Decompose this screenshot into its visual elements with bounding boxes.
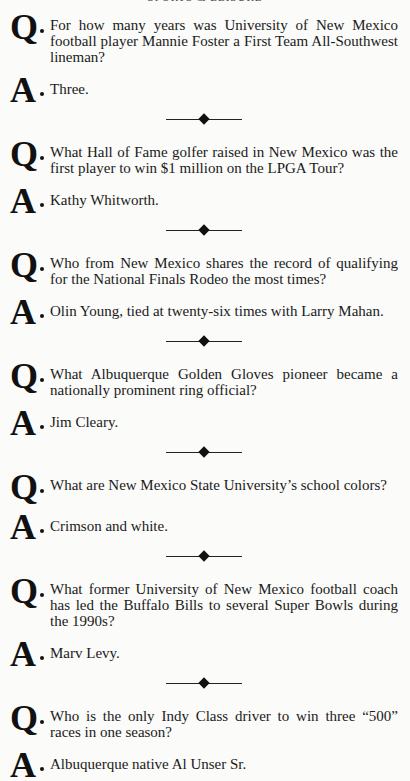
answer-marker: A bbox=[0, 75, 50, 105]
question-marker: Q bbox=[0, 576, 50, 606]
bullet-dot-icon bbox=[40, 425, 44, 429]
answer-marker: A bbox=[0, 186, 50, 216]
diamond-ornament-icon bbox=[198, 446, 209, 457]
diamond-ornament-icon bbox=[198, 113, 209, 124]
question-row: Q What Albuquerque Golden Gloves pioneer… bbox=[0, 361, 410, 398]
answer-text: Jim Cleary. bbox=[50, 408, 410, 430]
answer-marker: A bbox=[0, 639, 50, 669]
bullet-dot-icon bbox=[40, 29, 44, 33]
answer-text: Crimson and white. bbox=[50, 512, 410, 534]
question-text: What are New Mexico State University’s s… bbox=[50, 472, 410, 493]
question-text: Who from New Mexico shares the record of… bbox=[50, 250, 410, 287]
bullet-dot-icon bbox=[40, 314, 44, 318]
diamond-ornament-icon bbox=[198, 550, 209, 561]
answer-text: Albuquerque native Al Unser Sr. bbox=[50, 750, 410, 772]
section-divider bbox=[0, 335, 410, 349]
answer-text: Kathy Whitworth. bbox=[50, 186, 410, 208]
question-row: Q What Hall of Fame golfer raised in New… bbox=[0, 139, 410, 176]
question-marker: Q bbox=[0, 250, 50, 280]
question-row: Q Who from New Mexico shares the record … bbox=[0, 250, 410, 287]
bullet-dot-icon bbox=[40, 203, 44, 207]
qa-item: Q What are New Mexico State University’s… bbox=[0, 472, 410, 542]
answer-row: A Olin Young, tied at twenty-six times w… bbox=[0, 297, 410, 327]
answer-marker: A bbox=[0, 512, 50, 542]
qa-item: Q What former University of New Mexico f… bbox=[0, 576, 410, 669]
answer-row: A Kathy Whitworth. bbox=[0, 186, 410, 216]
bullet-dot-icon bbox=[40, 92, 44, 96]
bullet-dot-icon bbox=[40, 489, 44, 493]
qa-item: Q What Albuquerque Golden Gloves pioneer… bbox=[0, 361, 410, 438]
answer-marker: A bbox=[0, 408, 50, 438]
answer-row: A Jim Cleary. bbox=[0, 408, 410, 438]
bullet-dot-icon bbox=[40, 656, 44, 660]
bullet-dot-icon bbox=[40, 156, 44, 160]
running-head: SPORTS & LEISURE bbox=[0, 0, 410, 3]
section-divider bbox=[0, 677, 410, 691]
bullet-dot-icon bbox=[40, 767, 44, 771]
section-divider bbox=[0, 113, 410, 127]
question-text: What Albuquerque Golden Gloves pioneer b… bbox=[50, 361, 410, 398]
diamond-ornament-icon bbox=[198, 335, 209, 346]
answer-row: A Crimson and white. bbox=[0, 512, 410, 542]
question-text: For how many years was University of New… bbox=[50, 12, 410, 65]
qa-page: Q For how many years was University of N… bbox=[0, 12, 410, 780]
qa-item: Q Who is the only Indy Class driver to w… bbox=[0, 703, 410, 780]
answer-row: A Albuquerque native Al Unser Sr. bbox=[0, 750, 410, 780]
diamond-ornament-icon bbox=[198, 224, 209, 235]
section-divider bbox=[0, 446, 410, 460]
question-marker: Q bbox=[0, 703, 50, 733]
answer-marker: A bbox=[0, 750, 50, 780]
answer-marker: A bbox=[0, 297, 50, 327]
section-divider bbox=[0, 550, 410, 564]
diamond-ornament-icon bbox=[198, 677, 209, 688]
qa-item: Q For how many years was University of N… bbox=[0, 12, 410, 105]
question-text: Who is the only Indy Class driver to win… bbox=[50, 703, 410, 740]
section-divider bbox=[0, 224, 410, 238]
qa-item: Q What Hall of Fame golfer raised in New… bbox=[0, 139, 410, 216]
answer-row: A Marv Levy. bbox=[0, 639, 410, 669]
question-row: Q What are New Mexico State University’s… bbox=[0, 472, 410, 502]
bullet-dot-icon bbox=[40, 267, 44, 271]
answer-text: Olin Young, tied at twenty-six times wit… bbox=[50, 297, 410, 319]
question-text: What Hall of Fame golfer raised in New M… bbox=[50, 139, 410, 176]
bullet-dot-icon bbox=[40, 378, 44, 382]
answer-text: Marv Levy. bbox=[50, 639, 410, 661]
question-marker: Q bbox=[0, 139, 50, 169]
question-row: Q Who is the only Indy Class driver to w… bbox=[0, 703, 410, 740]
answer-text: Three. bbox=[50, 75, 410, 97]
question-row: Q What former University of New Mexico f… bbox=[0, 576, 410, 629]
question-marker: Q bbox=[0, 361, 50, 391]
question-text: What former University of New Mexico foo… bbox=[50, 576, 410, 629]
answer-row: A Three. bbox=[0, 75, 410, 105]
question-row: Q For how many years was University of N… bbox=[0, 12, 410, 65]
question-marker: Q bbox=[0, 12, 50, 42]
bullet-dot-icon bbox=[40, 529, 44, 533]
question-marker: Q bbox=[0, 472, 50, 502]
bullet-dot-icon bbox=[40, 720, 44, 724]
qa-item: Q Who from New Mexico shares the record … bbox=[0, 250, 410, 327]
bullet-dot-icon bbox=[40, 593, 44, 597]
